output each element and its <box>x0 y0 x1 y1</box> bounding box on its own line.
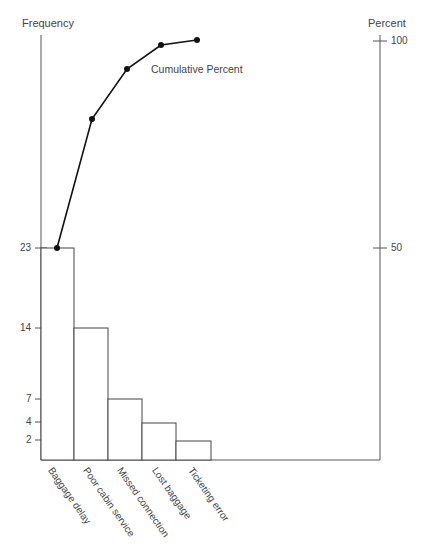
right-tick-50: 50 <box>391 242 402 253</box>
left-tick-4: 4 <box>26 416 32 427</box>
left-tick-23: 23 <box>20 242 31 253</box>
bar-poor-cabin-service <box>74 328 108 460</box>
bar-baggage-delay <box>41 248 74 460</box>
right-tick-100: 100 <box>391 35 408 46</box>
left-tick-2: 2 <box>26 434 32 445</box>
frequency-bars <box>41 248 211 460</box>
left-tick-7: 7 <box>26 393 32 404</box>
bar-ticketing-error <box>176 441 211 460</box>
bar-missed-connection <box>108 399 142 460</box>
pareto-chart <box>0 0 428 552</box>
bar-lost-baggage <box>142 423 176 460</box>
left-tick-14: 14 <box>20 322 31 333</box>
cumulative-percent-label: Cumulative Percent <box>151 63 243 75</box>
